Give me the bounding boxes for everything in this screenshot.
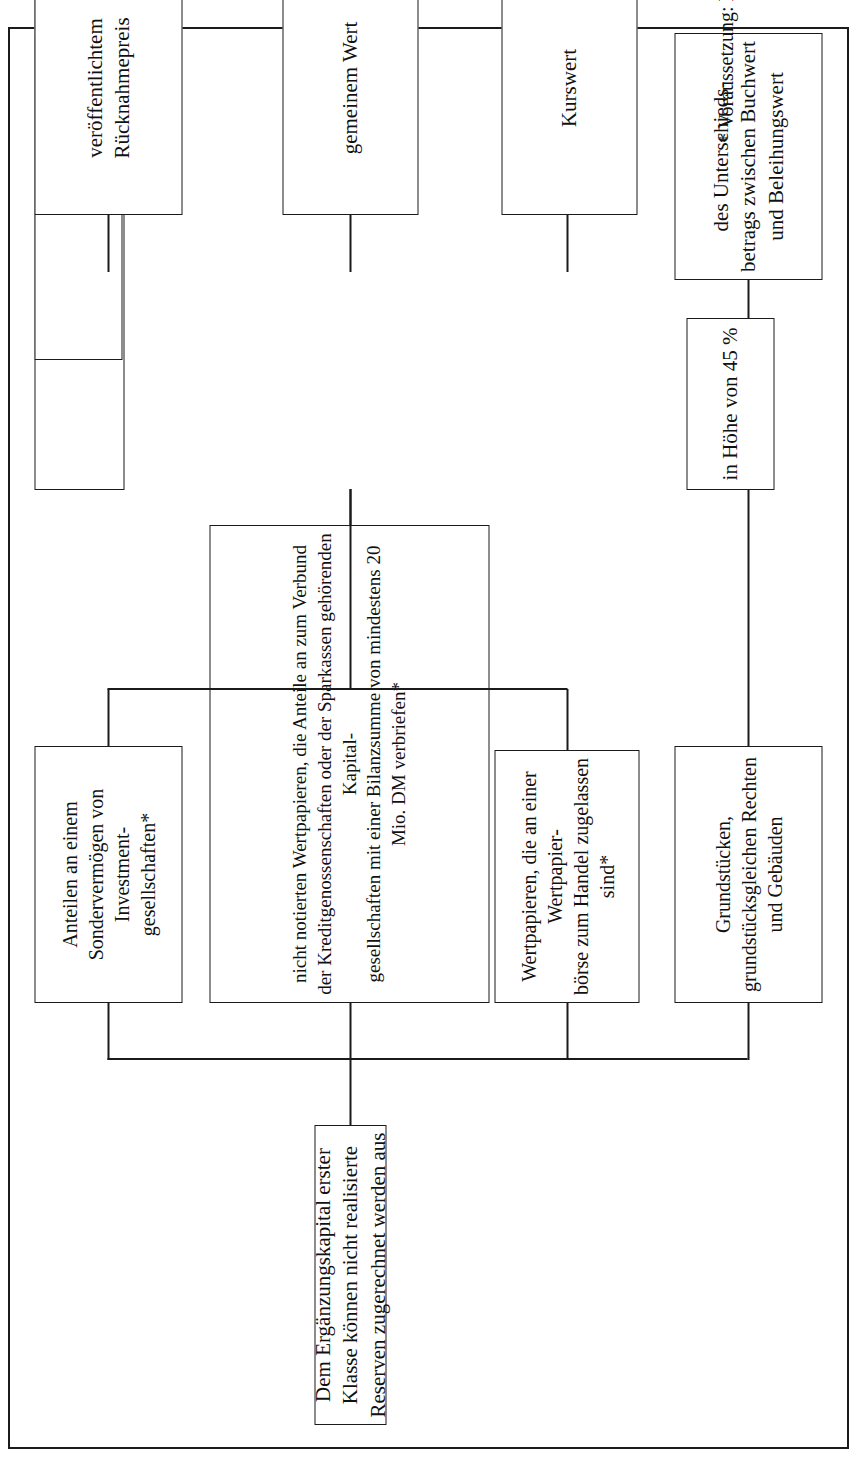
connector-bus-to-grundstuecke	[747, 1003, 749, 1060]
connector-root-to-bus	[349, 1059, 351, 1125]
source-box-investmentanteile: Anteilen an einem Sondervermögen von Inv…	[34, 746, 182, 1003]
connector-bus-to-investmentanteile	[107, 1003, 109, 1060]
connector-diff-to-ruecknahmepreis	[107, 215, 109, 272]
source-box-grundstuecke-label: Grundstücken, grundstücksgleichen Rechte…	[709, 753, 787, 996]
connector-diff-to-gemeiner-wert	[349, 215, 351, 272]
connector-bus-sources	[107, 1058, 747, 1060]
root-box: Dem Ergänzungskapital erster Klasse könn…	[314, 1125, 386, 1425]
connector-rate45-to-diff	[747, 280, 749, 318]
value-box-ruecknahmepreis: veröffentlichtem Rücknahmepreis	[34, 0, 182, 215]
source-box-investmentanteile-label: Anteilen an einem Sondervermögen von Inv…	[56, 753, 160, 996]
rate-box-45-label: in Höhe von 45 %	[716, 328, 743, 481]
rotated-diagram-wrapper: Dem Ergänzungskapital erster Klasse könn…	[14, 33, 843, 1443]
diagram-canvas: Dem Ergänzungskapital erster Klasse könn…	[14, 33, 843, 1443]
source-box-grundstuecke: Grundstücken, grundstücksgleichen Rechte…	[674, 746, 822, 1003]
source-box-wertpapiere-boerse: Wertpapieren, die an einer Wertpapier-bö…	[494, 750, 639, 1003]
value-box-ruecknahmepreis-label: veröffentlichtem Rücknahmepreis	[81, 0, 136, 208]
connector-investmentanteile-to-rate35	[107, 689, 109, 746]
difference-box-beleihungswert: des Unterschieds-betrags zwischen Buchwe…	[674, 33, 822, 280]
connector-boerse-to-rate35	[566, 689, 568, 750]
footnote-text: * Voraussetzung: Es handelt sich um Anla…	[714, 0, 737, 143]
connector-bus-rate35-to-box	[349, 489, 351, 690]
rate-box-45: in Höhe von 45 %	[686, 318, 774, 490]
value-box-gemeiner-wert-label: gemeinem Wert	[336, 22, 363, 155]
root-box-label: Dem Ergänzungskapital erster Klasse könn…	[309, 1132, 391, 1418]
value-box-kurswert-label: Kurswert	[555, 49, 582, 127]
connector-grundstuecke-to-rate45	[747, 489, 749, 746]
connector-diff-to-kurswert	[566, 215, 568, 272]
connector-bus-to-wertpapiere-boerse	[566, 1003, 568, 1060]
connector-bus-to-wertpapiere-nicht-notiert	[349, 1003, 351, 1060]
value-box-gemeiner-wert: gemeinem Wert	[282, 0, 418, 215]
value-box-kurswert: Kurswert	[501, 0, 637, 215]
connector-bus-rate35	[107, 688, 567, 690]
source-box-wertpapiere-boerse-label: Wertpapieren, die an einer Wertpapier-bö…	[515, 757, 619, 996]
diagram-page: Dem Ergänzungskapital erster Klasse könn…	[0, 0, 859, 1480]
